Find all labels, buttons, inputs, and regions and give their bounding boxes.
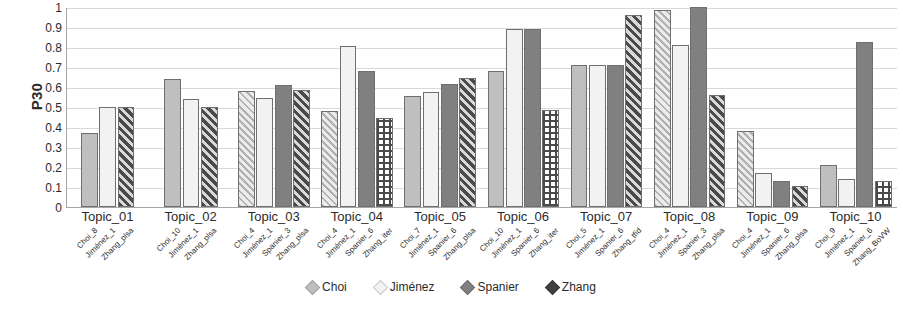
y-tick-label: 0.1 [45, 182, 62, 194]
y-tick-label: 1 [55, 2, 62, 14]
bar-choi-topic_04[interactable] [321, 111, 338, 207]
legend-diamond-icon [373, 279, 389, 295]
bar-zhang-topic_09[interactable] [792, 186, 809, 207]
bar-jimnez-topic_10[interactable] [838, 179, 855, 207]
bar-jimnez-topic_09[interactable] [755, 173, 772, 207]
legend-label: Spanier [477, 281, 518, 293]
y-axis-ticks: 10.90.80.70.60.50.40.30.20.10 [30, 8, 62, 208]
bar-zhang-topic_06[interactable] [542, 110, 559, 207]
bar-jimnez-topic_03[interactable] [256, 98, 273, 207]
bar-jimnez-topic_02[interactable] [183, 99, 200, 207]
bar-choi-topic_08[interactable] [654, 10, 671, 207]
bar-choi-topic_03[interactable] [238, 91, 255, 207]
y-tick-label: 0.4 [45, 122, 62, 134]
y-tick-label: 0.8 [45, 42, 62, 54]
category-label: Topic_04 [331, 209, 383, 224]
bar-detail-labels: Choi_8Jiménez_1Zhang_plsaChoi_10Jiménez_… [66, 226, 897, 278]
bar-group [67, 8, 150, 207]
bar-spanier-topic_04[interactable] [358, 71, 375, 207]
y-tick-label: 0.3 [45, 142, 62, 154]
bar-zhang-topic_10[interactable] [875, 181, 892, 207]
p30-bar-chart: P30 10.90.80.70.60.50.40.30.20.10 Topic_… [0, 0, 903, 311]
bar-spanier-topic_10[interactable] [856, 42, 873, 207]
bar-choi-topic_06[interactable] [488, 71, 505, 207]
legend-item-spanier[interactable]: Spanier [462, 281, 518, 293]
bar-group [150, 8, 233, 207]
bar-jimnez-topic_05[interactable] [423, 92, 440, 207]
legend-label: Zhang [562, 281, 596, 293]
bar-jimnez-topic_08[interactable] [672, 45, 689, 207]
y-tick-label: 0.5 [45, 102, 62, 114]
bar-group [649, 8, 732, 207]
category-label: Topic_10 [829, 209, 881, 224]
plot-area [66, 8, 897, 208]
bar-jimnez-topic_07[interactable] [589, 65, 606, 207]
y-tick-label: 0.7 [45, 62, 62, 74]
bar-spanier-topic_03[interactable] [275, 85, 292, 207]
y-tick-label: 0.9 [45, 22, 62, 34]
category-label: Topic_02 [165, 209, 217, 224]
bar-zhang-topic_08[interactable] [709, 95, 726, 207]
bar-choi-topic_09[interactable] [737, 131, 754, 207]
bar-spanier-topic_05[interactable] [441, 84, 458, 207]
bar-group [815, 8, 898, 207]
legend-diamond-icon [545, 279, 561, 295]
bar-choi-topic_02[interactable] [164, 79, 181, 207]
category-label: Topic_08 [663, 209, 715, 224]
bar-choi-topic_10[interactable] [820, 165, 837, 207]
bar-spanier-topic_07[interactable] [607, 65, 624, 207]
legend-item-jiménez[interactable]: Jiménez [375, 281, 435, 293]
category-label: Topic_07 [580, 209, 632, 224]
legend-item-choi[interactable]: Choi [307, 281, 347, 293]
legend-diamond-icon [305, 279, 321, 295]
bar-zhang-topic_07[interactable] [625, 15, 642, 207]
y-tick-label: 0.6 [45, 82, 62, 94]
bar-spanier-topic_06[interactable] [524, 29, 541, 207]
bar-group [732, 8, 815, 207]
category-label: Topic_06 [497, 209, 549, 224]
category-label: Topic_01 [82, 209, 134, 224]
bar-jimnez-topic_01[interactable] [99, 107, 116, 207]
bar-jimnez-topic_04[interactable] [340, 46, 357, 207]
bar-group [316, 8, 399, 207]
bar-choi-topic_01[interactable] [81, 133, 98, 207]
bar-group [399, 8, 482, 207]
category-label: Topic_09 [746, 209, 798, 224]
bar-jimnez-topic_06[interactable] [506, 29, 523, 207]
bar-zhang-topic_05[interactable] [459, 78, 476, 207]
legend-label: Jiménez [390, 281, 435, 293]
chart-legend: ChoiJiménezSpanierZhang [0, 281, 903, 293]
bar-group [233, 8, 316, 207]
bar-choi-topic_05[interactable] [404, 96, 421, 207]
legend-item-zhang[interactable]: Zhang [547, 281, 596, 293]
y-tick-label: 0 [55, 202, 62, 214]
bar-group [566, 8, 649, 207]
bar-zhang-topic_01[interactable] [118, 107, 135, 207]
bar-zhang-topic_03[interactable] [293, 90, 310, 207]
bar-zhang-topic_04[interactable] [376, 118, 393, 207]
legend-diamond-icon [460, 279, 476, 295]
category-label: Topic_05 [414, 209, 466, 224]
legend-label: Choi [322, 281, 347, 293]
bar-spanier-topic_08[interactable] [690, 7, 707, 207]
bar-choi-topic_07[interactable] [571, 65, 588, 207]
y-tick-label: 0.2 [45, 162, 62, 174]
bar-zhang-topic_02[interactable] [201, 107, 218, 207]
bars-layer [67, 8, 897, 207]
bar-spanier-topic_09[interactable] [773, 181, 790, 207]
category-label: Topic_03 [248, 209, 300, 224]
bar-group [483, 8, 566, 207]
